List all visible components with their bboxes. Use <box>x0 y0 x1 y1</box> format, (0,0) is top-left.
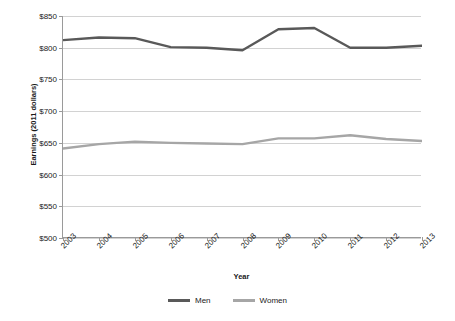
x-axis-label: Year <box>62 272 421 281</box>
legend-label: Women <box>260 296 287 305</box>
y-tick-label: $650 <box>39 138 57 147</box>
y-tick-label: $600 <box>39 170 57 179</box>
legend-item-men[interactable]: Men <box>168 296 211 305</box>
y-tick-label: $800 <box>39 43 57 52</box>
legend-item-women[interactable]: Women <box>233 296 287 305</box>
y-tick-label: $550 <box>39 202 57 211</box>
y-tick-label: $700 <box>39 107 57 116</box>
series-lines <box>63 16 422 238</box>
legend-swatch-icon <box>168 299 190 302</box>
y-axis-label: Earnings (2011 dollars) <box>29 40 38 210</box>
chart-legend: MenWomen <box>0 296 455 305</box>
y-tick-label: $500 <box>39 234 57 243</box>
line-chart: Earnings (2011 dollars) $500$550$600$650… <box>0 0 455 321</box>
series-line-men <box>63 28 422 50</box>
legend-label: Men <box>195 296 211 305</box>
plot-area: $500$550$600$650$700$750$800$850 2003200… <box>62 16 421 238</box>
y-tick-label: $750 <box>39 75 57 84</box>
y-tick-label: $850 <box>39 12 57 21</box>
series-line-women <box>63 135 422 148</box>
legend-swatch-icon <box>233 299 255 302</box>
